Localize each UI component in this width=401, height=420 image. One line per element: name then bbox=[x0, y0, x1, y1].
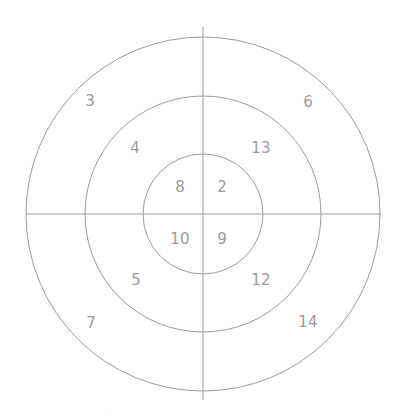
ring-label-4: 4 bbox=[130, 141, 140, 156]
ring-label-8: 8 bbox=[175, 180, 185, 195]
ring-label-6: 6 bbox=[303, 95, 313, 110]
ring-label-12: 12 bbox=[251, 273, 271, 288]
scan-artifact: · bbox=[109, 408, 111, 415]
concentric-circles-diagram: 3671441351282109 · bbox=[0, 0, 401, 420]
ring-label-9: 9 bbox=[217, 232, 227, 247]
ring-label-5: 5 bbox=[131, 273, 141, 288]
divider-group bbox=[26, 27, 381, 400]
ring-label-7: 7 bbox=[86, 316, 96, 331]
ring-label-3: 3 bbox=[85, 94, 95, 109]
ring-label-10: 10 bbox=[170, 232, 190, 247]
ring-label-13: 13 bbox=[251, 141, 271, 156]
diagram-canvas bbox=[0, 0, 401, 420]
ring-label-2: 2 bbox=[217, 180, 227, 195]
ring-label-14: 14 bbox=[298, 315, 318, 330]
